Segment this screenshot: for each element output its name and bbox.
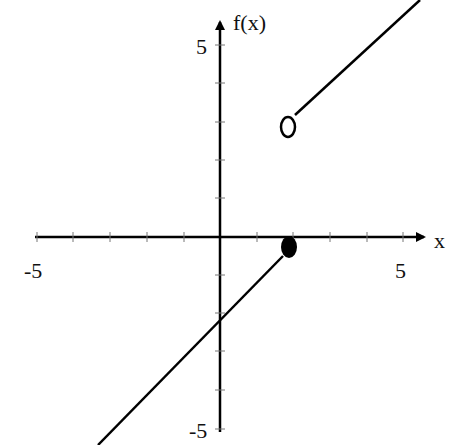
x-max-label: 5	[395, 258, 406, 283]
x-min-label: -5	[24, 258, 42, 283]
function-graph: f(x) x -5 5 5 -5	[0, 0, 469, 445]
y-axis-label: f(x)	[233, 10, 266, 35]
upper-line-segment	[295, 0, 420, 115]
y-max-label: 5	[196, 34, 207, 59]
y-min-label: -5	[189, 418, 207, 443]
x-axis-label: x	[434, 228, 445, 253]
open-endpoint-circle	[281, 117, 295, 137]
closed-endpoint-dot	[281, 236, 297, 258]
lower-line-segment	[98, 256, 283, 445]
